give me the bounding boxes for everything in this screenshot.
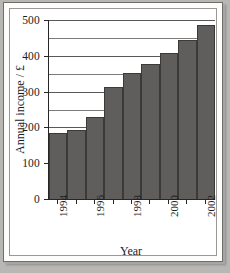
y-tick-label-300: 300	[22, 86, 40, 98]
x-label-wrap-1999	[140, 204, 158, 242]
x-label-wrap-1994: 1994	[48, 204, 66, 242]
bar-1995	[67, 130, 85, 199]
x-label-wrap-2002: 2002	[196, 204, 214, 242]
x-axis-labels: 19941996199820002002	[48, 204, 214, 242]
figure-canvas: Annual income / £ 0 100 200 300 400 500	[0, 0, 230, 273]
chart-paper: Annual income / £ 0 100 200 300 400 500	[3, 2, 223, 262]
x-label-wrap-1997	[103, 204, 121, 242]
bar-1997	[104, 87, 122, 199]
x-label-wrap-1998: 1998	[122, 204, 140, 242]
bar-1999	[141, 64, 159, 199]
y-tick-label-0: 0	[34, 193, 40, 205]
x-tick-label-2002: 2002	[205, 195, 217, 217]
bar-1996	[86, 117, 104, 199]
x-axis-title: Year	[48, 244, 214, 259]
bar-2000	[160, 53, 178, 199]
x-label-wrap-1995	[66, 204, 84, 242]
x-label-wrap-1996: 1996	[85, 204, 103, 242]
x-label-wrap-2000: 2000	[159, 204, 177, 242]
bar-series	[49, 20, 215, 199]
x-label-wrap-2001	[177, 204, 195, 242]
y-tick-label-400: 400	[22, 50, 40, 62]
bar-2001	[178, 40, 196, 199]
bar-1994	[49, 133, 67, 199]
plot-area	[48, 20, 215, 200]
y-tick-label-200: 200	[22, 121, 40, 133]
y-axis-title-label: Annual income / £	[13, 65, 28, 154]
y-tick-label-100: 100	[22, 157, 40, 169]
bar-1998	[123, 73, 141, 199]
y-tick-label-500: 500	[22, 14, 40, 26]
bar-2002	[197, 25, 215, 199]
y-axis-title: Annual income / £	[12, 20, 28, 199]
